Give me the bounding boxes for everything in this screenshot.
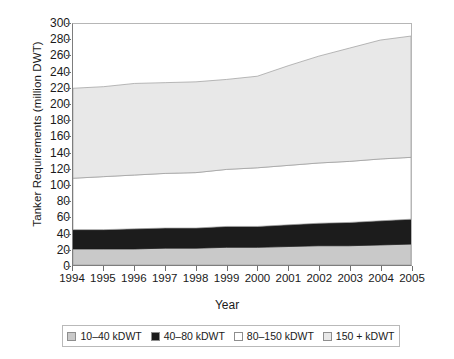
legend-label: 80–150 kDWT (247, 331, 314, 342)
legend-item[interactable]: 40–80 kDWT (151, 331, 225, 342)
y-axis-tick-mark (66, 104, 71, 105)
x-axis-tick-label: 1999 (210, 272, 244, 284)
x-axis-tick-label: 2005 (395, 272, 429, 284)
legend-item[interactable]: 150 + kDWT (323, 331, 395, 342)
x-axis-tick-mark (165, 266, 166, 271)
y-axis-tick-mark (66, 55, 71, 56)
stacked-area-series (73, 24, 411, 265)
chart-figure: Tanker Requirements (million DWT) 300280… (0, 0, 454, 359)
legend-label: 40–80 kDWT (164, 331, 225, 342)
y-axis-tick-mark (66, 120, 71, 121)
x-axis-tick-label: 2004 (364, 272, 398, 284)
x-axis-tick-label: 1997 (148, 272, 182, 284)
x-axis-tick-mark (72, 266, 73, 271)
x-axis-tick-mark (227, 266, 228, 271)
x-axis-tick-mark (196, 266, 197, 271)
x-axis-tick-label: 2002 (302, 272, 336, 284)
x-axis-tick-mark (103, 266, 104, 271)
legend-swatch-icon (151, 332, 160, 341)
plot-area (72, 23, 412, 266)
legend-swatch-icon (67, 332, 76, 341)
x-axis-tick-mark (319, 266, 320, 271)
y-axis-tick-mark (66, 234, 71, 235)
x-axis-tick-label: 2000 (240, 272, 274, 284)
x-axis-tick-mark (412, 266, 413, 271)
legend-swatch-icon (234, 332, 243, 341)
x-axis-tick-mark (288, 266, 289, 271)
x-axis-tick-label: 1995 (86, 272, 120, 284)
y-axis-ticks: 3002802602402202001801601401201008060402… (36, 0, 70, 290)
legend-swatch-icon (323, 332, 332, 341)
chart-legend: 10–40 kDWT40–80 kDWT80–150 kDWT150 + kDW… (62, 325, 400, 347)
x-axis-tick-mark (134, 266, 135, 271)
y-axis-tick-mark (66, 39, 71, 40)
legend-label: 150 + kDWT (336, 331, 395, 342)
y-axis-tick-mark (66, 153, 71, 154)
y-axis-tick-mark (66, 185, 71, 186)
y-axis-tick-mark (66, 72, 71, 73)
x-axis-tick-label: 1998 (179, 272, 213, 284)
x-axis-tick-label: 1996 (117, 272, 151, 284)
x-axis-title: Year (0, 298, 454, 312)
x-axis-tick-mark (381, 266, 382, 271)
y-axis-tick-mark (66, 217, 71, 218)
y-axis-tick-mark (66, 136, 71, 137)
y-axis-tick-mark (66, 250, 71, 251)
legend-label: 10–40 kDWT (80, 331, 141, 342)
y-axis-tick-mark (66, 88, 71, 89)
y-axis-tick-mark (66, 201, 71, 202)
y-axis-tick-mark (66, 266, 71, 267)
x-axis-ticks: 1994199519961997199819992000200120022003… (0, 272, 454, 288)
y-axis-tick-mark (66, 23, 71, 24)
x-axis-tick-label: 1994 (55, 272, 89, 284)
y-axis-tick-mark (66, 169, 71, 170)
legend-item[interactable]: 80–150 kDWT (234, 331, 314, 342)
x-axis-tick-label: 2003 (333, 272, 367, 284)
area-series (73, 36, 411, 178)
x-axis-tick-label: 2001 (271, 272, 305, 284)
x-axis-tick-mark (350, 266, 351, 271)
x-axis-tick-mark (257, 266, 258, 271)
legend-item[interactable]: 10–40 kDWT (67, 331, 141, 342)
